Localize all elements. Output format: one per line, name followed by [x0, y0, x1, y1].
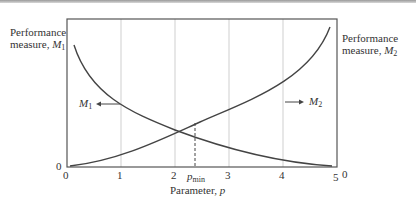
x-tick-1: 1 [117, 169, 123, 181]
pmin-label: pmin [187, 170, 205, 182]
m2-label: M2 [309, 95, 322, 107]
curve-m1 [74, 45, 332, 166]
x-tick-5: 5 [333, 171, 339, 183]
x-tick-4: 4 [279, 169, 285, 181]
left-axis-title: Performance measure, M1 [10, 26, 66, 50]
left-zero: 0 [56, 160, 62, 172]
grid-lines [121, 19, 283, 167]
right-axis-title: Performance measure, M2 [342, 32, 398, 56]
m1-label: M1 [79, 97, 92, 109]
x-tick-2: 2 [171, 169, 177, 181]
right-zero: 0 [342, 168, 348, 180]
x-tick-0: 0 [63, 169, 69, 181]
x-tick-3: 3 [225, 169, 231, 181]
x-axis-title: Parameter, p [170, 184, 225, 196]
plot-frame [67, 19, 337, 167]
